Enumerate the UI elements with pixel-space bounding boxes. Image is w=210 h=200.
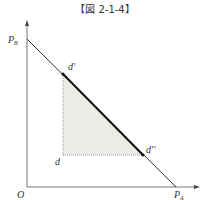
x-axis-arrow-icon — [194, 185, 200, 189]
point-d-prime — [61, 72, 64, 75]
diagram: 【図 2-1-4】 PB d' d'' d O PA — [0, 0, 210, 200]
label-d-prime: d' — [68, 61, 76, 72]
label-d-double-prime: d'' — [146, 144, 156, 155]
label-PA: PA — [173, 189, 184, 200]
label-d: d — [55, 156, 61, 167]
label-origin: O — [17, 189, 24, 200]
point-d-double-prime — [141, 153, 144, 156]
figure-title: 【図 2-1-4】 — [75, 4, 134, 15]
label-PB: PB — [7, 34, 18, 46]
y-axis-arrow-icon — [25, 20, 29, 26]
